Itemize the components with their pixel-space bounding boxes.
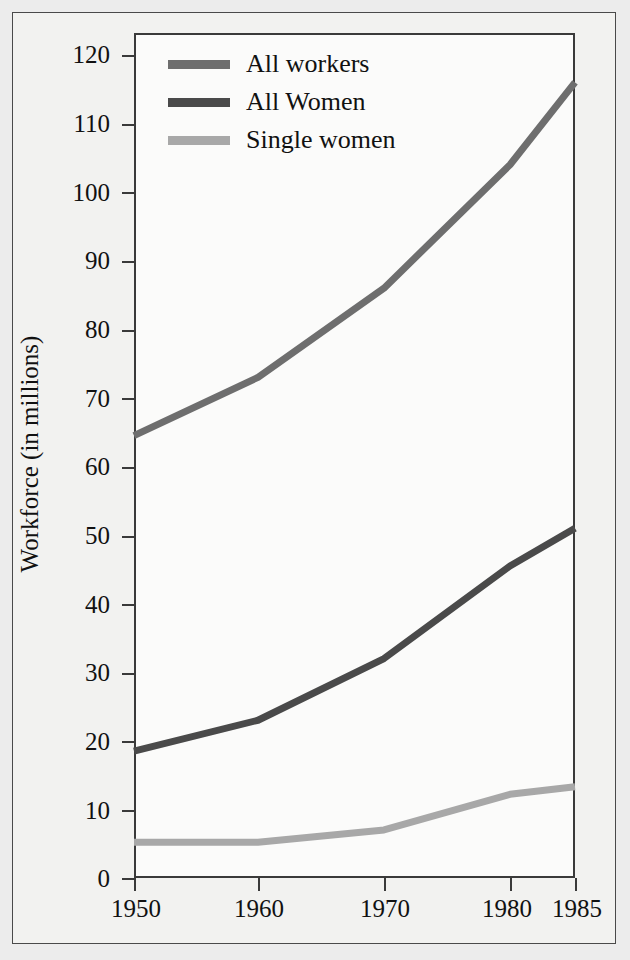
x-tick-1970 [384, 878, 386, 891]
y-tick-label-50: 50 [48, 523, 110, 548]
y-tick-100 [122, 192, 134, 194]
y-tick-label-80: 80 [48, 317, 110, 342]
y-axis: 120 110 100 90 80 70 60 50 40 30 20 10 0 [48, 0, 110, 960]
x-tick-1960 [258, 878, 260, 891]
y-tick-label-30: 30 [48, 660, 110, 685]
y-tick-label-100: 100 [48, 180, 110, 205]
y-tick-label-120: 120 [48, 42, 110, 67]
legend-swatch-all-workers [168, 60, 230, 69]
legend-item-all-workers: All workers [168, 45, 468, 83]
legend-label-all-women: All Women [246, 89, 365, 115]
y-tick-40 [122, 604, 134, 606]
x-tick-label-1960: 1960 [204, 896, 314, 921]
y-tick-label-40: 40 [48, 592, 110, 617]
plot-area [134, 33, 575, 878]
y-tick-label-60: 60 [48, 454, 110, 479]
legend-item-single-women: Single women [168, 121, 468, 159]
chart-legend: All workers All Women Single women [168, 45, 468, 159]
y-tick-120 [122, 55, 134, 57]
x-tick-1980 [510, 878, 512, 891]
x-tick-label-1950: 1950 [81, 896, 191, 921]
y-tick-70 [122, 398, 134, 400]
y-tick-label-10: 10 [48, 798, 110, 823]
y-tick-label-0: 0 [48, 866, 110, 891]
legend-item-all-women: All Women [168, 83, 468, 121]
legend-swatch-single-women [168, 136, 230, 145]
y-tick-110 [122, 124, 134, 126]
y-tick-90 [122, 261, 134, 263]
y-tick-30 [122, 673, 134, 675]
y-tick-label-70: 70 [48, 386, 110, 411]
y-tick-60 [122, 467, 134, 469]
y-tick-label-90: 90 [48, 248, 110, 273]
x-tick-1950 [134, 878, 136, 891]
y-tick-80 [122, 330, 134, 332]
x-tick-1985 [575, 878, 577, 891]
y-tick-label-20: 20 [48, 729, 110, 754]
legend-label-single-women: Single women [246, 127, 396, 153]
y-axis-title: Workforce (in millions) [16, 219, 44, 689]
y-tick-50 [122, 536, 134, 538]
y-tick-20 [122, 741, 134, 743]
chart-figure: Workforce (in millions) 120 110 100 90 8… [0, 0, 630, 960]
y-tick-10 [122, 810, 134, 812]
legend-label-all-workers: All workers [246, 51, 369, 77]
x-tick-label-1985: 1985 [522, 896, 630, 921]
legend-swatch-all-women [168, 98, 230, 107]
x-tick-label-1970: 1970 [330, 896, 440, 921]
y-tick-label-110: 110 [48, 111, 110, 136]
y-tick-0 [122, 878, 134, 880]
